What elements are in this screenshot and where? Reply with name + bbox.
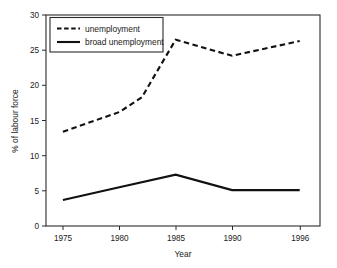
chart-figure: 0 5 10 15 20 25 30 1975 1980 1985 1990 1… bbox=[0, 0, 337, 268]
x-tick-label-1996: 1996 bbox=[291, 234, 310, 243]
y-tick-label-25: 25 bbox=[30, 46, 40, 55]
y-axis-ticks bbox=[42, 15, 46, 226]
y-tick-label-20: 20 bbox=[30, 81, 40, 90]
y-tick-label-30: 30 bbox=[30, 11, 40, 20]
x-axis-title: Year bbox=[175, 249, 192, 259]
legend-label-broad-unemployment: broad unemployment bbox=[85, 37, 164, 47]
series-line-unemployment bbox=[63, 40, 300, 132]
chart-legend: unemployment broad unemployment bbox=[50, 18, 164, 53]
y-tick-label-10: 10 bbox=[30, 152, 40, 161]
x-tick-label-1990: 1990 bbox=[223, 234, 242, 243]
y-tick-label-15: 15 bbox=[30, 117, 40, 126]
legend-label-unemployment: unemployment bbox=[85, 24, 141, 34]
line-chart-canvas: 0 5 10 15 20 25 30 1975 1980 1985 1990 1… bbox=[0, 0, 337, 268]
y-tick-label-5: 5 bbox=[34, 187, 39, 196]
series-line-broad-unemployment bbox=[63, 175, 300, 200]
y-axis-title: % of labour force bbox=[10, 89, 20, 153]
y-axis-tick-labels: 0 5 10 15 20 25 30 bbox=[30, 11, 40, 231]
x-tick-label-1985: 1985 bbox=[167, 234, 186, 243]
x-axis-ticks bbox=[63, 226, 300, 230]
x-tick-label-1975: 1975 bbox=[54, 234, 73, 243]
x-tick-label-1980: 1980 bbox=[110, 234, 129, 243]
y-tick-label-0: 0 bbox=[34, 222, 39, 231]
x-axis-tick-labels: 1975 1980 1985 1990 1996 bbox=[54, 234, 310, 243]
